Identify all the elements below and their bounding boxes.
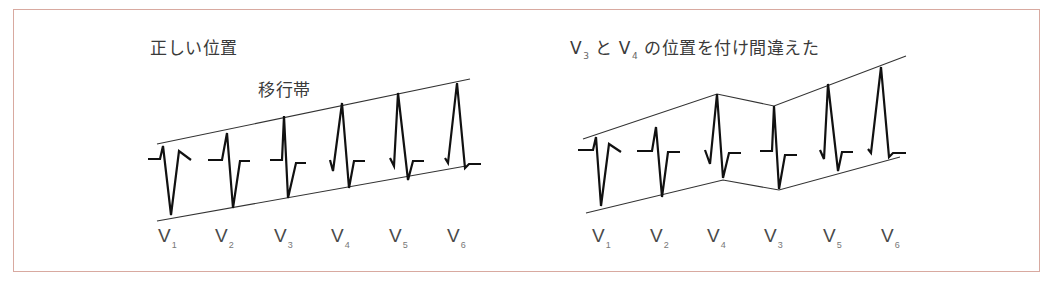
- left-lower-envelope: [157, 166, 466, 221]
- right-upper-envelope: [583, 56, 906, 139]
- lead-base: V: [215, 225, 228, 246]
- right-lead-label: V2: [650, 225, 669, 247]
- right-qrs-v2: [637, 127, 680, 197]
- left-panel-traces: [148, 79, 481, 221]
- left-panel-title: 正しい位置: [150, 34, 238, 59]
- lead-base: V: [764, 225, 777, 246]
- title-v4-base: V: [619, 38, 631, 58]
- lead-base: V: [650, 225, 663, 246]
- transition-zone-label: 移行帯: [258, 76, 311, 101]
- right-panel-title: V3と V4の位置を付け間違えた: [570, 34, 819, 59]
- right-lead-label: V5: [823, 225, 842, 247]
- lead-sub: 2: [664, 240, 669, 250]
- lead-sub: 6: [461, 240, 466, 250]
- right-qrs-v3: [760, 106, 797, 189]
- lead-base: V: [389, 225, 402, 246]
- lead-sub: 4: [345, 240, 350, 250]
- left-lead-label: V2: [215, 225, 234, 247]
- lead-sub: 6: [895, 240, 900, 250]
- left-lead-label: V4: [331, 225, 350, 247]
- lead-base: V: [823, 225, 836, 246]
- title-rest: の位置を付け間違えた: [644, 38, 819, 58]
- lead-sub: 5: [837, 240, 842, 250]
- left-qrs-v3: [270, 116, 306, 198]
- lead-base: V: [707, 225, 720, 246]
- lead-base: V: [331, 225, 344, 246]
- lead-sub: 1: [172, 240, 177, 250]
- lead-sub: 3: [288, 240, 293, 250]
- left-qrs-v6: [445, 83, 481, 168]
- right-qrs-v5: [820, 84, 853, 171]
- right-lead-label: V3: [764, 225, 783, 247]
- right-lead-label: V4: [707, 225, 726, 247]
- left-lead-label: V1: [158, 225, 177, 247]
- lead-sub: 3: [778, 240, 783, 250]
- right-lower-envelope: [586, 157, 900, 213]
- left-qrs-v1: [148, 146, 191, 215]
- lead-base: V: [274, 225, 287, 246]
- lead-base: V: [592, 225, 605, 246]
- left-qrs-v2: [208, 133, 250, 208]
- title-and: と: [595, 38, 613, 58]
- title-v3-sub: 3: [583, 51, 589, 61]
- lead-sub: 1: [606, 240, 611, 250]
- lead-base: V: [881, 225, 894, 246]
- title-v4-sub: 4: [632, 51, 638, 61]
- left-qrs-v4: [330, 103, 365, 188]
- right-qrs-v1: [578, 137, 621, 206]
- right-lead-label: V6: [881, 225, 900, 247]
- left-qrs-v5: [390, 93, 424, 180]
- right-panel-traces: [578, 56, 906, 213]
- right-qrs-v6: [868, 67, 906, 157]
- right-lead-label: V1: [592, 225, 611, 247]
- lead-sub: 2: [229, 240, 234, 250]
- right-qrs-v4: [705, 94, 741, 178]
- lead-sub: 5: [403, 240, 408, 250]
- left-lead-label: V3: [274, 225, 293, 247]
- lead-sub: 4: [721, 240, 726, 250]
- left-upper-envelope: [157, 79, 470, 144]
- lead-base: V: [158, 225, 171, 246]
- lead-base: V: [447, 225, 460, 246]
- left-lead-label: V5: [389, 225, 408, 247]
- left-lead-label: V6: [447, 225, 466, 247]
- title-v3-base: V: [570, 38, 582, 58]
